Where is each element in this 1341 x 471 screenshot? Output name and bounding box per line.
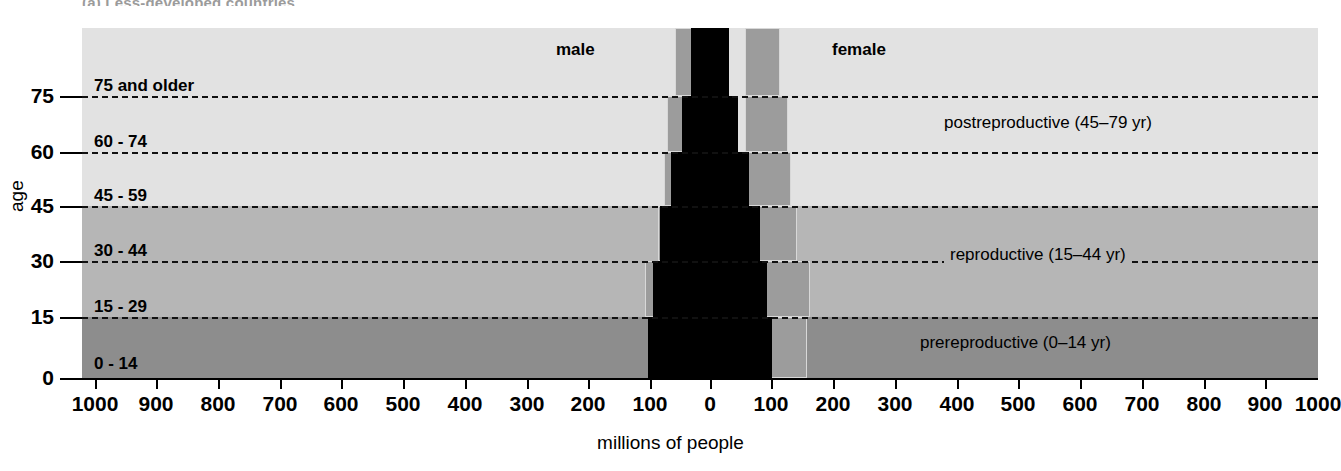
bar-black-female-45-59	[710, 152, 749, 206]
bar-black-male-60-74	[682, 96, 710, 152]
band-label-45-59: 45 - 59	[94, 186, 147, 206]
x-tick-label: 500	[385, 392, 420, 416]
bar-gray-female-60-74	[745, 96, 788, 152]
x-tick-label: 400	[939, 392, 974, 416]
dash-line-60	[82, 152, 1318, 154]
x-tick-label: 800	[200, 392, 235, 416]
x-tick	[650, 378, 652, 389]
label-zone-prereproductive: prereproductive (0–14 yr)	[920, 333, 1111, 353]
x-tick	[403, 378, 405, 389]
y-tick	[60, 378, 82, 380]
y-tick-label: 60	[14, 140, 54, 164]
x-tick-label: 600	[1062, 392, 1097, 416]
x-tick	[771, 378, 773, 389]
x-tick-label: 0	[704, 392, 716, 416]
x-tick-label: 400	[447, 392, 482, 416]
bar-black-male-15-29	[653, 261, 710, 317]
y-tick-label: 15	[14, 305, 54, 329]
bar-black-male-30-44	[660, 206, 710, 261]
y-tick	[60, 206, 82, 208]
dash-line-30	[82, 261, 1318, 263]
bar-black-female-75plus	[710, 28, 729, 96]
x-tick-label: 1000	[1295, 392, 1341, 416]
x-tick	[280, 378, 282, 389]
x-tick-label: 200	[570, 392, 605, 416]
x-tick-label: 300	[509, 392, 544, 416]
dash-line-75	[82, 96, 1318, 98]
plot-area: male female postreproductive (45–79 yr) …	[82, 28, 1318, 378]
band-label-0-14: 0 - 14	[94, 354, 137, 374]
x-tick	[833, 378, 835, 389]
x-tick	[957, 378, 959, 389]
bar-black-male-0-14	[648, 317, 710, 378]
label-male: male	[556, 40, 595, 60]
y-tick-label: 0	[14, 366, 54, 390]
label-female: female	[832, 40, 886, 60]
y-tick	[60, 261, 82, 263]
x-tick-label: 900	[138, 392, 173, 416]
y-axis-title: age	[6, 180, 28, 212]
x-tick	[895, 378, 897, 389]
x-tick	[341, 378, 343, 389]
x-tick-label: 1000	[72, 392, 119, 416]
x-tick-label: 800	[1186, 392, 1221, 416]
x-tick-label: 500	[1000, 392, 1035, 416]
y-tick-label: 30	[14, 249, 54, 273]
band-label-30-44: 30 - 44	[94, 241, 147, 261]
band-label-15-29: 15 - 29	[94, 297, 147, 317]
x-tick-label: 300	[877, 392, 912, 416]
band-label-75plus: 75 and older	[94, 76, 194, 96]
x-tick	[1204, 378, 1206, 389]
dash-line-15	[82, 317, 1318, 319]
x-tick	[1142, 378, 1144, 389]
x-tick-label: 900	[1247, 392, 1282, 416]
x-tick	[1265, 378, 1267, 389]
figure-caption: (a) Less-developed countries	[82, 0, 782, 6]
label-zone-postreproductive: postreproductive (45–79 yr)	[944, 113, 1152, 133]
bar-gray-female-45-59	[745, 152, 791, 206]
x-tick	[95, 378, 97, 389]
x-tick	[156, 378, 158, 389]
x-axis-title: millions of people	[0, 432, 1341, 454]
bar-black-male-75plus	[691, 28, 710, 96]
population-pyramid-chart: (a) Less-developed countries	[0, 0, 1341, 471]
x-tick-label: 700	[262, 392, 297, 416]
y-tick-label: 75	[14, 84, 54, 108]
dash-line-45	[82, 206, 1318, 208]
x-tick-label: 600	[323, 392, 358, 416]
y-tick	[60, 152, 82, 154]
label-zone-reproductive: reproductive (15–44 yr)	[944, 245, 1132, 265]
band-label-60-74: 60 - 74	[94, 132, 147, 152]
bar-black-female-60-74	[710, 96, 738, 152]
x-tick-label: 200	[815, 392, 850, 416]
x-tick	[588, 378, 590, 389]
bar-black-female-15-29	[710, 261, 767, 317]
bar-gray-female-75plus	[745, 28, 780, 96]
bar-black-male-45-59	[671, 152, 710, 206]
x-tick-label: 700	[1124, 392, 1159, 416]
x-tick	[218, 378, 220, 389]
x-tick	[1080, 378, 1082, 389]
bar-black-female-30-44	[710, 206, 760, 261]
x-tick-label: 100	[753, 392, 788, 416]
bar-black-female-0-14	[710, 317, 772, 378]
x-axis	[82, 378, 1318, 380]
x-tick	[527, 378, 529, 389]
x-tick	[1018, 378, 1020, 389]
x-tick-label: 100	[632, 392, 667, 416]
y-tick	[60, 96, 82, 98]
y-tick	[60, 317, 82, 319]
x-tick	[465, 378, 467, 389]
x-tick	[710, 378, 712, 389]
